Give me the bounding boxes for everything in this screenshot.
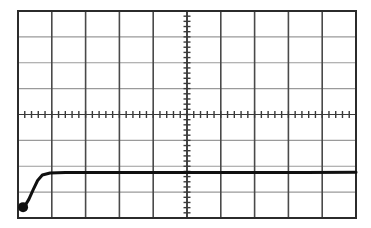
trace-start-blob: [18, 202, 28, 212]
oscilloscope-screenshot: [0, 0, 371, 228]
oscilloscope-graticule: [0, 0, 371, 228]
